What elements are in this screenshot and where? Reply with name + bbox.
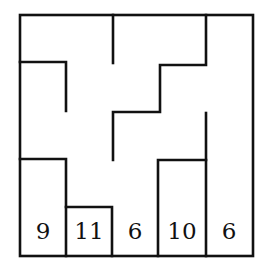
cell-number-5: 6 bbox=[206, 220, 252, 243]
cell-number-4: 10 bbox=[159, 220, 205, 243]
cell-number-1: 9 bbox=[20, 220, 66, 243]
cell-number-2: 11 bbox=[66, 220, 112, 243]
wall-segment bbox=[20, 62, 66, 111]
wall-segment bbox=[113, 15, 206, 160]
cell-number-3: 6 bbox=[112, 220, 158, 243]
